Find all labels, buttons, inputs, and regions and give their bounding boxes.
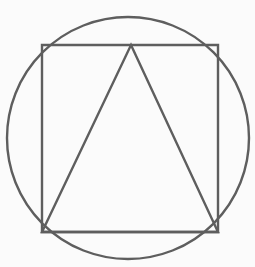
figure-canvas	[0, 0, 255, 267]
geometry-drawing	[0, 0, 255, 267]
